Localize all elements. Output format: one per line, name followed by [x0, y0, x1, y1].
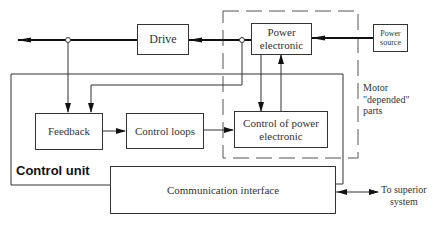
- output-tap: [66, 38, 71, 43]
- superior-system-label: To superior system: [381, 184, 427, 207]
- power-source-label-1: Power: [380, 29, 400, 38]
- power-source-label-2: source: [380, 38, 401, 47]
- motor-parts-line-2: "depended": [363, 94, 409, 106]
- motor-parts-line-1: Motor: [363, 82, 409, 94]
- control-pe-label-2: electronic: [259, 130, 302, 143]
- superior-line-1: To superior: [381, 184, 427, 196]
- communication-interface-block: Communication interface: [110, 166, 336, 214]
- power-electronic-label-2: electronic: [260, 39, 303, 52]
- power-electronic-block: Power electronic: [251, 23, 312, 55]
- motor-parts-label: Motor "depended" parts: [363, 82, 409, 117]
- communication-interface-label: Communication interface: [167, 184, 279, 197]
- drive-label: Drive: [149, 33, 176, 47]
- motor-parts-line-3: parts: [363, 105, 409, 117]
- feedback-block: Feedback: [35, 113, 103, 150]
- control-unit-label: Control unit: [16, 163, 90, 178]
- superior-line-2: system: [381, 196, 427, 208]
- control-power-electronic-block: Control of power electronic: [234, 111, 328, 148]
- control-loops-label: Control loops: [135, 125, 195, 138]
- pe-tap: [240, 38, 245, 43]
- power-source-block: Power source: [373, 24, 408, 52]
- power-electronic-label-1: Power: [267, 26, 295, 39]
- control-loops-block: Control loops: [126, 113, 204, 149]
- control-pe-label-1: Control of power: [243, 117, 319, 130]
- feedback-label: Feedback: [48, 125, 90, 138]
- drive-block: Drive: [137, 24, 189, 55]
